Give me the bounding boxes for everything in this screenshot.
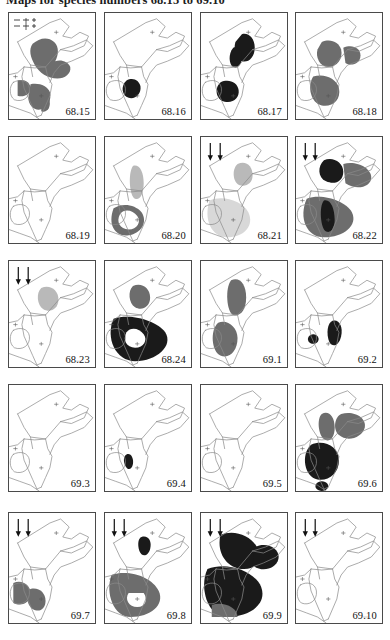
map-panel-68-16[interactable]: 68.16 — [104, 12, 192, 120]
map-outline-9 — [223, 437, 225, 449]
map-outline-3 — [41, 439, 52, 487]
locality-cross-0 — [109, 447, 113, 451]
map-outline-10 — [229, 487, 233, 489]
map-panel-68-21[interactable]: 68.21 — [200, 136, 288, 244]
locality-cross-2 — [54, 531, 58, 535]
species-number-label: 69.10 — [352, 610, 377, 621]
arrow-markers — [302, 142, 322, 164]
locality-cross-0 — [205, 75, 209, 79]
locality-cross-2 — [54, 278, 58, 282]
down-arrow-head-1 — [313, 155, 318, 160]
map-outline-2 — [242, 412, 285, 454]
map-outline-10 — [133, 487, 137, 489]
map-outline-3 — [137, 439, 148, 487]
map-outline-10 — [133, 619, 137, 621]
map-outline-3 — [41, 315, 52, 363]
locality-cross-0 — [300, 323, 304, 327]
map-panel-68-23[interactable]: 68.23 — [8, 260, 96, 368]
map-panel-69-9[interactable]: 69.9 — [200, 512, 288, 624]
map-panel-69-6[interactable]: 69.6 — [295, 384, 383, 492]
down-arrow-head-1 — [218, 155, 223, 160]
map-panel-69-5[interactable]: 69.5 — [200, 384, 288, 492]
map-panel-69-8[interactable]: 69.8 — [104, 512, 192, 624]
map-outline-8 — [9, 315, 24, 323]
locality-cross-0 — [205, 447, 209, 451]
locality-cross-2 — [150, 402, 154, 406]
map-panel-68-22[interactable]: 68.22 — [295, 136, 383, 244]
map-panel-68-20[interactable]: 68.20 — [104, 136, 192, 244]
map-outline-0 — [305, 267, 376, 300]
map-outline-5 — [24, 569, 46, 570]
arrow-group — [111, 518, 131, 540]
locality-cross-0 — [13, 75, 17, 79]
map-outline-6 — [10, 204, 29, 224]
down-arrow-head-1 — [122, 531, 127, 536]
locality-cross-2 — [341, 278, 345, 282]
map-panel-69-2[interactable]: 69.2 — [295, 260, 383, 368]
range-ethiopia-highlands — [30, 38, 70, 78]
range-kenya-block — [310, 75, 339, 105]
map-panel-69-4[interactable]: 69.4 — [104, 384, 192, 492]
locality-cross-0 — [300, 199, 304, 203]
arrow-markers — [111, 518, 131, 540]
map-panel-69-3[interactable]: 69.3 — [8, 384, 96, 492]
map-outline-8 — [105, 439, 120, 447]
map-panel-69-10[interactable]: 69.10 — [295, 512, 383, 624]
map-outline-0 — [114, 143, 185, 176]
map-outline-8 — [9, 67, 24, 75]
map-outline-8 — [296, 315, 311, 323]
species-number-label: 68.16 — [161, 106, 186, 117]
map-outline-5 — [24, 439, 46, 440]
map-panel-68-19[interactable]: 68.19 — [8, 136, 96, 244]
locality-cross-1 — [135, 466, 139, 470]
map-panel-68-18[interactable]: 68.18 — [295, 12, 383, 120]
map-outline-2 — [50, 541, 93, 585]
map-panel-68-15[interactable]: 68.15 — [8, 12, 96, 120]
map-outline-8 — [296, 439, 311, 447]
map-outline-2 — [337, 40, 380, 82]
map-panel-68-17[interactable]: 68.17 — [200, 12, 288, 120]
arrow-group — [302, 518, 322, 540]
locality-cross-0 — [13, 447, 17, 451]
locality-cross-0 — [13, 323, 17, 327]
locality-cross-0 — [13, 577, 17, 581]
species-number-label: 69.2 — [358, 354, 377, 365]
species-number-label: 68.19 — [65, 230, 90, 241]
map-outline-5 — [216, 191, 238, 192]
locality-cross-2 — [150, 531, 154, 535]
map-outline-10 — [37, 487, 41, 489]
map-panel-68-24[interactable]: 68.24 — [104, 260, 192, 368]
map-outline-10 — [133, 239, 137, 241]
map-outline-8 — [9, 439, 24, 447]
locality-cross-2 — [341, 402, 345, 406]
map-outline-10 — [229, 619, 233, 621]
map-outline-3 — [233, 439, 244, 487]
map-panel-69-7[interactable]: 69.7 — [8, 512, 96, 624]
map-outline-10 — [37, 619, 41, 621]
map-outline-10 — [229, 115, 233, 117]
range-somali-arm — [343, 46, 360, 64]
arrow-group — [15, 518, 35, 540]
locality-cross-2 — [341, 30, 345, 34]
map-graphic — [296, 385, 382, 491]
range-victoria-ring — [111, 205, 144, 236]
map-graphic — [105, 13, 191, 119]
map-outline-9 — [31, 313, 33, 325]
map-panel-69-1[interactable]: 69.1 — [200, 260, 288, 368]
arrow-markers — [302, 518, 322, 540]
locality-cross-2 — [246, 531, 250, 535]
map-outline-1 — [18, 543, 61, 569]
map-outline-5 — [24, 315, 46, 316]
map-outline-8 — [9, 569, 24, 577]
species-number-label: 68.20 — [161, 230, 186, 241]
map-outline-2 — [146, 40, 189, 82]
map-outline-9 — [31, 65, 33, 77]
range-ethiopia-patch — [234, 163, 253, 186]
map-outline-8 — [201, 67, 216, 75]
map-outline-1 — [305, 543, 348, 569]
map-outline-9 — [318, 567, 320, 579]
range-kenya-broad — [207, 198, 250, 237]
map-outline-0 — [18, 391, 89, 424]
map-graphic — [105, 261, 191, 367]
map-graphic — [105, 385, 191, 491]
